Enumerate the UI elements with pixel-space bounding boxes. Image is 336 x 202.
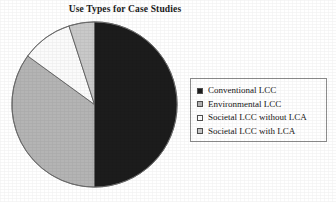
- legend-item-label: Environmental LCC: [208, 98, 281, 112]
- legend-item[interactable]: Societal LCC without LCA: [196, 111, 326, 125]
- pie-chart-plot-area: [11, 21, 178, 188]
- legend-swatch-icon: [197, 88, 203, 94]
- pie-slice-group: [12, 22, 177, 187]
- legend-swatch-icon: [197, 101, 203, 107]
- legend-item-label: Conventional LCC: [208, 84, 276, 98]
- legend-item[interactable]: Environmental LCC: [196, 98, 326, 112]
- legend-item[interactable]: Conventional LCC: [196, 84, 326, 98]
- chart-legend: Conventional LCC Environmental LCC Socie…: [190, 78, 327, 142]
- legend-item-label: Societal LCC with LCA: [208, 125, 295, 139]
- legend-item[interactable]: Societal LCC with LCA: [196, 125, 326, 139]
- pie-chart-figure: Use Types for Case Studies Conventional …: [0, 0, 336, 202]
- pie-slice[interactable]: [95, 22, 178, 187]
- legend-item-label: Societal LCC without LCA: [208, 111, 307, 125]
- legend-swatch-icon: [197, 115, 203, 121]
- chart-title: Use Types for Case Studies: [0, 4, 250, 14]
- pie-svg: [11, 21, 178, 188]
- legend-swatch-icon: [197, 128, 203, 134]
